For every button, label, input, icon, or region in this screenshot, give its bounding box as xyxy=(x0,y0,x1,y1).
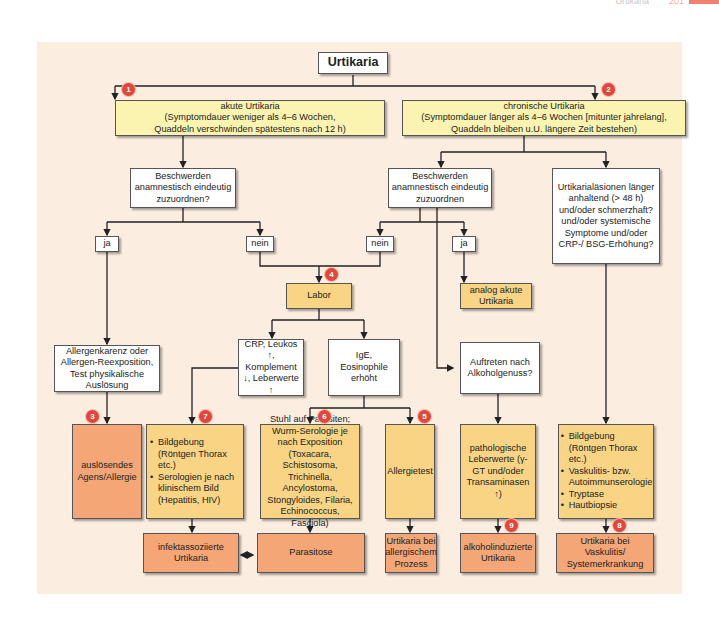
step-badge-6: 6 xyxy=(318,410,331,423)
allergic-urticaria-box: Urtikaria bei allergischem Prozess xyxy=(385,533,437,573)
infection-workup-list: Bildgebung (Röntgen Thorax etc.) Serolog… xyxy=(149,437,241,506)
step-badge-5: 5 xyxy=(418,410,431,423)
chronic-urticaria-box: chronische Urtikaria (Symptomdauer länge… xyxy=(402,100,686,136)
vasculitis-workup-item: Bildgebung (Röntgen Thorax etc.) xyxy=(569,431,653,466)
acute-urticaria-box: akute Urtikaria (Symptomdauer weniger al… xyxy=(115,100,385,136)
nein-left-box: nein xyxy=(246,236,274,252)
infection-workup-box: Bildgebung (Röntgen Thorax etc.) Serolog… xyxy=(146,424,244,519)
vasculitis-workup-item: Vaskulitis- bzw. Autoimmunserologie xyxy=(569,466,653,489)
alcohol-question-box: Auftreten nach Alkoholgenuss? xyxy=(460,342,540,394)
analog-acute-box: analog akute Urtikaria xyxy=(460,283,532,309)
infection-workup-item: Bildgebung (Röntgen Thorax etc.) xyxy=(158,437,241,472)
vasculitis-urticaria-box: Urtikaria bei Vaskulitis/ Systemerkranku… xyxy=(556,533,654,573)
step-badge-9: 9 xyxy=(505,519,518,532)
vasculitis-workup-box: Bildgebung (Röntgen Thorax etc.) Vaskuli… xyxy=(558,424,654,519)
infection-workup-item: Serologien je nach klinischem Bild (Hepa… xyxy=(158,472,241,507)
alcohol-urticaria-box: alkoholinduzierte Urtikaria xyxy=(460,533,536,573)
allergen-box: Allergenkarenz oder Allergen-Reexpositio… xyxy=(54,345,160,392)
liver-values-box: pathologische Leberwerte (γ-GT und/oder … xyxy=(460,424,536,519)
parasite-workup-box: Stuhl auf Parasiten; Wurm-Serologie je n… xyxy=(260,424,360,519)
step-badge-1: 1 xyxy=(122,83,135,96)
step-badge-4: 4 xyxy=(325,268,338,281)
crp-box: CRP, Leukos ↑, Komplement ↓, Leberwerte … xyxy=(238,339,304,396)
step-badge-7: 7 xyxy=(199,410,212,423)
allergy-test-box: Allergietest xyxy=(385,424,435,519)
chronic-question-box: Beschwerden anamnestisch eindeutig zuzuo… xyxy=(388,168,492,208)
ja-right-box: ja xyxy=(452,236,476,252)
ja-left-box: ja xyxy=(95,236,119,252)
labor-box: Labor xyxy=(286,283,352,309)
vasculitis-workup-list: Bildgebung (Röntgen Thorax etc.) Vaskuli… xyxy=(560,431,653,512)
nein-right-box: nein xyxy=(366,236,394,252)
vasculitis-workup-item: Tryptase xyxy=(569,489,653,501)
infect-urticaria-box: infektassoziierte Urtikaria xyxy=(143,533,239,573)
parasitosis-box: Parasitose xyxy=(257,533,365,573)
lesions-question-box: Urtikarialäsionen länger anhaltend (> 48… xyxy=(552,168,660,264)
ige-box: IgE, Eosinophile erhöht xyxy=(328,339,400,396)
step-badge-2: 2 xyxy=(602,83,615,96)
root-node-urtikaria: Urtikaria xyxy=(318,52,388,74)
acute-question-box: Beschwerden anamnestisch eindeutig zuzuo… xyxy=(130,168,236,208)
vasculitis-workup-item: Hautbiopsie xyxy=(569,500,653,512)
trigger-agent-box: auslösendes Agens/Allergie xyxy=(72,424,142,519)
step-badge-8: 8 xyxy=(613,519,626,532)
step-badge-3: 3 xyxy=(86,410,99,423)
